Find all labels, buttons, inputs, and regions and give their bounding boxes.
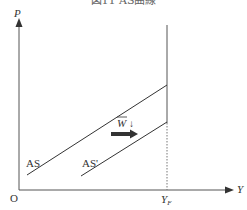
as-prime-label: AS' — [82, 157, 98, 169]
wage-label: W — [117, 117, 127, 129]
yf-label: YF — [161, 193, 172, 207]
down-arrow-icon: ↓ — [129, 118, 134, 129]
x-axis-label: Y — [237, 183, 245, 195]
y-axis-arrowhead-icon — [16, 18, 23, 27]
origin-label: O — [10, 192, 18, 204]
as-curve-diagram: P Y O YF AS AS' W ↓ — [0, 0, 247, 210]
shift-arrow-icon — [130, 130, 138, 139]
y-axis-label: P — [13, 7, 21, 19]
as-label: AS — [26, 157, 40, 169]
x-axis-arrowhead-icon — [225, 187, 234, 194]
